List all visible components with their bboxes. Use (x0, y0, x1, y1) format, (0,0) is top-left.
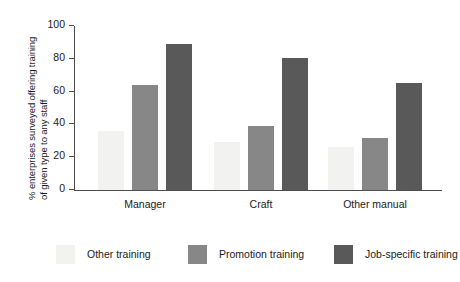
bar-group (214, 26, 308, 190)
bar (282, 58, 308, 190)
y-axis-tick-label: 60 (53, 84, 65, 97)
bar-group (98, 26, 192, 190)
bar (396, 83, 422, 190)
bar (98, 131, 124, 190)
legend-swatch (56, 245, 75, 264)
legend-label: Promotion training (219, 248, 304, 261)
y-axis-tick-label: 20 (53, 149, 65, 162)
y-axis-title-text: % enterprises surveyed offering training… (26, 4, 49, 200)
y-axis-tick: 40 (69, 123, 74, 124)
legend-item: Job-specific training (334, 244, 458, 264)
y-axis-title-line-2: of given type to any staff (38, 4, 50, 200)
y-axis-tick: 100 (69, 25, 74, 26)
y-axis-tick: 0 (69, 189, 74, 190)
y-axis-tick: 20 (69, 156, 74, 157)
bar-chart-figure: % enterprises surveyed offering training… (0, 0, 460, 282)
legend-label: Other training (87, 248, 151, 261)
bar (328, 147, 354, 190)
bar-group (328, 26, 422, 190)
y-axis-tick: 60 (69, 91, 74, 92)
y-axis-tick-label: 0 (59, 182, 65, 195)
bar (362, 138, 388, 190)
x-axis-line (74, 190, 442, 191)
y-axis-title-line-1: % enterprises surveyed offering training (26, 37, 37, 200)
bar (132, 85, 158, 190)
y-axis-line (74, 26, 75, 190)
legend-swatch (188, 245, 207, 264)
y-axis-tick-label: 40 (53, 116, 65, 129)
y-axis-tick-label: 80 (53, 51, 65, 64)
y-axis-title: % enterprises surveyed offering training… (0, 0, 34, 205)
x-axis-category-label: Other manual (328, 198, 422, 211)
bar (248, 126, 274, 190)
y-axis-tick-label: 100 (47, 18, 65, 31)
x-axis-category-label: Craft (214, 198, 308, 211)
bar (214, 142, 240, 190)
bar (166, 44, 192, 190)
legend-item: Other training (56, 244, 151, 264)
legend-item: Promotion training (188, 244, 304, 264)
y-axis-tick: 80 (69, 58, 74, 59)
legend-swatch (334, 245, 353, 264)
x-axis-category-label: Manager (98, 198, 192, 211)
plot-area: 020406080100 ManagerCraftOther manual (74, 22, 442, 190)
legend-label: Job-specific training (365, 248, 458, 261)
chart-legend: Other trainingPromotion trainingJob-spec… (56, 244, 456, 270)
